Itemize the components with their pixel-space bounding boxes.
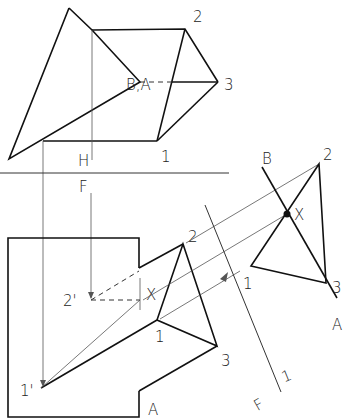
label-top-3: 3 [224,76,234,94]
piercing-point-x-icon [284,211,291,218]
label-front-1: 1 [155,328,165,346]
label-aux-a: A [332,316,342,334]
label-1prime: 1' [20,382,34,400]
top-plane-triangle [9,8,140,159]
label-f1-f: F [251,395,267,415]
label-aux-2: 2 [323,146,333,164]
label-top-1: 1 [161,148,171,166]
label-2prime: 2' [63,292,77,310]
label-aux-b: B [262,150,272,168]
label-h: H [78,152,89,170]
label-ba: B,A [126,76,151,94]
top-prism-top-edge [92,29,218,82]
aux-view: B 2 X 1 3 A [243,146,342,334]
label-f: F [79,178,88,196]
projector-aux-x [143,214,287,300]
label-aux-x: X [294,206,304,224]
front-edge-1prime-1 [41,320,157,388]
front-view: 2 1 3 2' X 1' A [8,228,231,419]
label-aux-3: 3 [332,279,342,297]
front-hidden-2prime-diag [91,271,139,300]
drawing-canvas: B,A 2 3 1 H F 2 1 3 2' X 1' A F 1 [0,0,357,419]
label-top-2: 2 [193,8,203,26]
label-aux-1: 1 [243,275,253,293]
fold-line-f1 [205,205,281,392]
front-edge-1prime-x [41,300,140,388]
front-plane-step-bottom [139,346,217,391]
arrow-2prime-icon [88,292,94,299]
front-prism-triangle [157,244,217,346]
top-prism-edge-1-3 [157,82,218,141]
top-prism-edge-1-2 [157,29,185,141]
label-f1-1: 1 [279,366,295,386]
label-front-a: A [148,401,158,419]
top-view: B,A 2 3 1 [9,8,234,385]
label-front-3: 3 [221,352,231,370]
